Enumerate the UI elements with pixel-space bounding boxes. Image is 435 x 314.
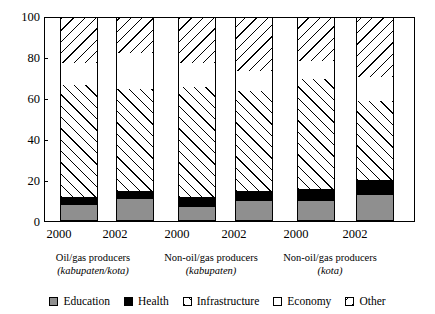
legend-item-infrastructure: Infrastructure bbox=[183, 295, 260, 307]
bar-nonoil-kota-2002 bbox=[356, 18, 394, 221]
bar-segment-education bbox=[235, 200, 273, 221]
bar-segment-economy bbox=[60, 62, 98, 85]
bar-nonoil-kab-2002 bbox=[235, 18, 273, 221]
x-tick-label-4: 2000 bbox=[266, 227, 326, 241]
bar-segment-other bbox=[356, 17, 394, 77]
y-tick-label-60: 60 bbox=[6, 93, 40, 105]
bar-segment-infrastructure bbox=[60, 84, 98, 197]
x-tick-label-1: 2002 bbox=[85, 227, 145, 241]
bar-segment-economy bbox=[297, 60, 335, 79]
legend: Education Health Infrastructure Economy … bbox=[0, 290, 435, 312]
bar-segment-education bbox=[297, 200, 335, 221]
bar-segment-health bbox=[178, 196, 216, 207]
legend-swatch-education-icon bbox=[49, 297, 58, 306]
bar-oilgas-2002 bbox=[116, 18, 154, 221]
legend-label-economy: Economy bbox=[287, 295, 331, 307]
bar-segment-health bbox=[297, 188, 335, 201]
legend-swatch-other-icon bbox=[345, 297, 354, 306]
x-tick-label-2: 2000 bbox=[147, 227, 207, 241]
bar-oilgas-2000 bbox=[60, 18, 98, 221]
bar-segment-infrastructure bbox=[116, 88, 154, 191]
legend-swatch-health-icon bbox=[124, 297, 133, 306]
bar-segment-health bbox=[235, 190, 273, 201]
bar-segment-other bbox=[60, 17, 98, 63]
bar-segment-other bbox=[297, 17, 335, 61]
y-tick-label-40: 40 bbox=[6, 134, 40, 146]
plot-area bbox=[44, 17, 415, 222]
bar-segment-education bbox=[356, 194, 394, 221]
group-label-nonoil-kabupaten-name: Non-oil/gas producers bbox=[164, 252, 258, 263]
bar-segment-other bbox=[235, 17, 273, 71]
bar-segment-economy bbox=[178, 62, 216, 87]
bar-segment-education bbox=[60, 204, 98, 221]
group-label-nonoil-kota-sub: (kota) bbox=[255, 265, 405, 278]
group-label-nonoil-kota: Non-oil/gas producers (kota) bbox=[255, 252, 405, 277]
bar-segment-health bbox=[116, 190, 154, 199]
bar-segment-health bbox=[60, 196, 98, 205]
legend-label-other: Other bbox=[359, 295, 385, 307]
group-label-oilgas-name: Oil/gas producers bbox=[56, 252, 130, 263]
legend-item-education: Education bbox=[49, 295, 110, 307]
bar-segment-other bbox=[178, 17, 216, 63]
bar-segment-economy bbox=[235, 70, 273, 91]
bar-nonoil-kab-2000 bbox=[178, 18, 216, 221]
stacked-bar-chart: 100 80 60 40 20 0 2000 2002 2000 2002 20… bbox=[0, 0, 435, 314]
y-tick-label-80: 80 bbox=[6, 52, 40, 64]
legend-item-other: Other bbox=[345, 295, 385, 307]
legend-swatch-infrastructure-icon bbox=[183, 297, 192, 306]
group-label-nonoil-kota-name: Non-oil/gas producers bbox=[283, 252, 377, 263]
bar-segment-education bbox=[178, 206, 216, 221]
bar-segment-infrastructure bbox=[235, 90, 273, 190]
bar-segment-education bbox=[116, 198, 154, 221]
x-tick-label-5: 2002 bbox=[325, 227, 385, 241]
bar-segment-infrastructure bbox=[356, 100, 394, 180]
bar-segment-infrastructure bbox=[178, 86, 216, 197]
bar-segment-health bbox=[356, 179, 394, 194]
legend-item-economy: Economy bbox=[273, 295, 331, 307]
bar-segment-economy bbox=[356, 76, 394, 101]
legend-label-education: Education bbox=[63, 295, 110, 307]
x-tick-label-0: 2000 bbox=[29, 227, 89, 241]
y-tick-label-20: 20 bbox=[6, 175, 40, 187]
legend-swatch-economy-icon bbox=[273, 297, 282, 306]
x-tick-label-3: 2002 bbox=[204, 227, 264, 241]
y-tick-label-100: 100 bbox=[6, 11, 40, 23]
bar-segment-economy bbox=[116, 52, 154, 90]
y-axis: 100 80 60 40 20 0 bbox=[0, 17, 40, 222]
bar-segment-infrastructure bbox=[297, 78, 335, 189]
legend-label-infrastructure: Infrastructure bbox=[197, 295, 260, 307]
legend-label-health: Health bbox=[138, 295, 169, 307]
legend-item-health: Health bbox=[124, 295, 169, 307]
bar-segment-other bbox=[116, 17, 154, 53]
bar-nonoil-kota-2000 bbox=[297, 18, 335, 221]
